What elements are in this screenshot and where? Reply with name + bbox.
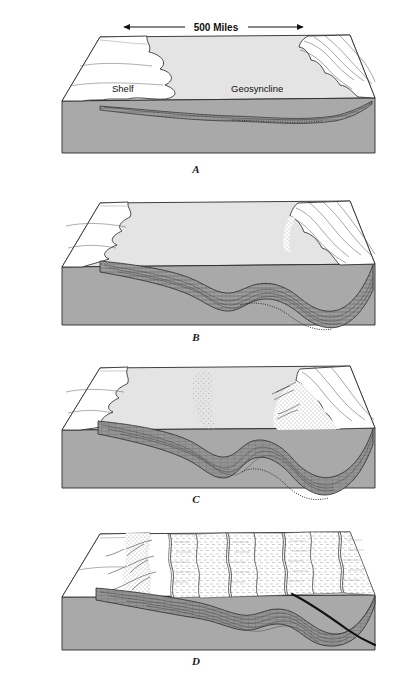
panel-c: C — [62, 366, 375, 505]
panel-d-ridge-6 — [310, 532, 342, 594]
panel-a-front-face — [62, 98, 375, 153]
panel-b: B — [62, 201, 375, 343]
panel-a: Shelf Geosyncline A — [62, 35, 375, 175]
geosyncline-label: Geosyncline — [231, 83, 283, 94]
scale-bar: 500 Miles — [124, 22, 303, 33]
block-diagram-svg: 500 Miles Shelf Geosyncline A — [0, 0, 394, 679]
panel-d-letter: D — [191, 655, 200, 667]
panel-d-fold-belt — [168, 532, 375, 598]
geosyncline-figure: 500 Miles Shelf Geosyncline A — [0, 0, 394, 679]
panel-d-transition-stipple — [122, 533, 152, 597]
shelf-label: Shelf — [112, 83, 134, 94]
panel-c-letter: C — [192, 493, 200, 505]
panel-b-letter: B — [191, 331, 199, 343]
panel-d-ridge-2 — [196, 533, 230, 598]
panel-a-letter: A — [191, 163, 199, 175]
panel-d: D — [62, 532, 375, 667]
panel-d-ridge-4 — [254, 533, 286, 596]
scale-bar-label: 500 Miles — [194, 22, 239, 33]
panel-d-ridge-7 — [338, 532, 375, 595]
